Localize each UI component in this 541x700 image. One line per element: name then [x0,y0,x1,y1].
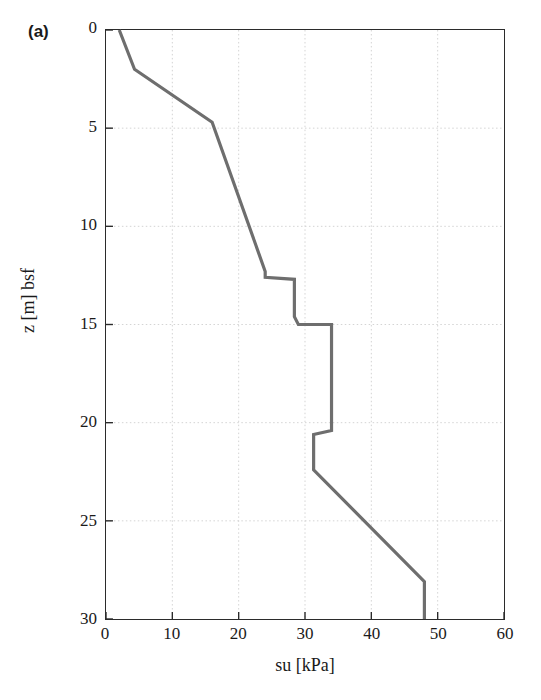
x-tick-label: 50 [418,624,458,644]
y-tick-label: 10 [55,215,97,235]
y-tick-label: 15 [55,314,97,334]
y-tick-label: 30 [55,609,97,629]
plot-area [105,29,505,620]
y-tick-label: 0 [55,18,97,38]
y-tick-label: 20 [55,412,97,432]
data-series-0 [119,30,424,619]
x-tick-label: 40 [352,624,392,644]
x-tick-label: 60 [485,624,525,644]
y-axis-label: z [m] bsf [18,221,39,381]
x-tick-label: 20 [218,624,258,644]
x-axis-label: su [kPa] [105,655,505,676]
figure-panel-a: (a) 0102030405060 051015202530 su [kPa] … [0,0,541,700]
y-tick-label: 25 [55,511,97,531]
panel-label: (a) [28,22,49,42]
y-tick-label: 5 [55,117,97,137]
x-tick-label: 10 [152,624,192,644]
x-tick-label: 30 [285,624,325,644]
su-profile-curve [106,30,504,619]
